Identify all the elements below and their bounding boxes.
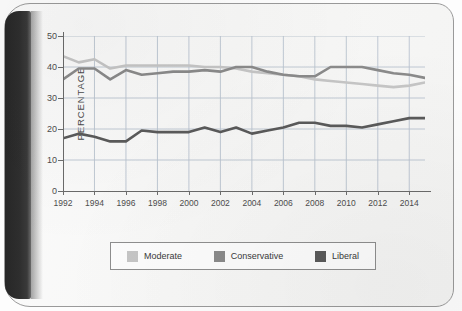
x-tick-label: 2012 (368, 198, 387, 208)
legend-swatch-moderate (127, 251, 138, 262)
y-tick-mark (58, 160, 63, 161)
x-tick-label: 2000 (179, 198, 198, 208)
x-tick-label: 1992 (54, 198, 73, 208)
legend-label-moderate: Moderate (144, 251, 182, 261)
x-tick-mark (220, 191, 221, 195)
series-line-moderate (63, 56, 425, 87)
legend-item-conservative: Conservative (214, 251, 284, 262)
y-tick-mark (58, 98, 63, 99)
x-tick-label: 1994 (85, 198, 104, 208)
legend-item-liberal: Liberal (315, 251, 359, 262)
plot-area: 01020304050 1992199419961998200020022004… (63, 36, 425, 191)
legend-swatch-liberal (315, 251, 326, 262)
x-tick-mark (409, 191, 410, 195)
line-chart: PERCENTAGE 01020304050 19921994199619982… (36, 14, 454, 296)
x-tick-label: 2014 (400, 198, 419, 208)
legend-label-conservative: Conservative (231, 251, 284, 261)
x-tick-mark (315, 191, 316, 195)
x-tick-label: 2006 (274, 198, 293, 208)
y-tick-mark (58, 67, 63, 68)
x-tick-label: 1998 (148, 198, 167, 208)
y-tick-label: 10 (47, 155, 57, 165)
y-axis-line (63, 32, 64, 191)
x-tick-mark (126, 191, 127, 195)
x-tick-label: 2010 (337, 198, 356, 208)
chart-canvas (63, 36, 425, 191)
legend-label-liberal: Liberal (332, 251, 359, 261)
x-tick-mark (252, 191, 253, 195)
legend-item-moderate: Moderate (127, 251, 182, 262)
y-tick-label: 40 (47, 62, 57, 72)
x-tick-label: 2004 (242, 198, 261, 208)
x-tick-mark (346, 191, 347, 195)
x-axis-line (63, 191, 431, 192)
chart-legend: Moderate Conservative Liberal (110, 242, 376, 270)
scanned-page: PERCENTAGE 01020304050 19921994199619982… (0, 0, 462, 311)
y-tick-label: 30 (47, 93, 57, 103)
x-tick-mark (94, 191, 95, 195)
x-tick-mark (283, 191, 284, 195)
x-tick-label: 2008 (305, 198, 324, 208)
y-tick-mark (58, 129, 63, 130)
legend-swatch-conservative (214, 251, 225, 262)
y-tick-label: 50 (47, 31, 57, 41)
y-tick-mark (58, 36, 63, 37)
x-tick-label: 1996 (116, 198, 135, 208)
x-tick-mark (63, 191, 64, 195)
x-tick-label: 2002 (211, 198, 230, 208)
y-tick-label: 20 (47, 124, 57, 134)
y-tick-label: 0 (52, 186, 57, 196)
gridlines (63, 36, 425, 191)
series-line-liberal (63, 118, 425, 141)
x-tick-mark (378, 191, 379, 195)
x-tick-mark (189, 191, 190, 195)
book-spine (5, 11, 31, 299)
x-tick-mark (157, 191, 158, 195)
